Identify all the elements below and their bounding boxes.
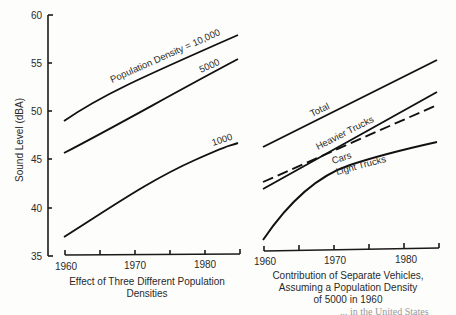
- svg-text:50: 50: [31, 106, 43, 117]
- label-total: Total: [308, 100, 331, 119]
- svg-text:1980: 1980: [194, 259, 217, 270]
- y-tick-labels: 60 55 50 45 40 35: [31, 10, 43, 262]
- right-caption-line-3: of 5000 in 1960: [258, 294, 438, 306]
- left-caption-line-2: Densities: [62, 288, 232, 300]
- line-density-10000: [64, 35, 238, 121]
- right-caption-line-2: Assuming a Population Density: [258, 282, 438, 294]
- svg-text:40: 40: [31, 203, 43, 214]
- chart-canvas: 60 55 50 45 40 35 Sound Level (dBA) 1960…: [0, 0, 456, 315]
- svg-text:60: 60: [31, 10, 43, 21]
- svg-text:1980: 1980: [395, 254, 418, 265]
- svg-text:1970: 1970: [324, 255, 347, 266]
- y-axis-label: Sound Level (dBA): [14, 98, 25, 182]
- left-x-axis: [65, 249, 240, 255]
- right-x-axis: [264, 243, 439, 251]
- left-caption: Effect of Three Different Population Den…: [62, 276, 232, 300]
- label-density-5000: 5000: [197, 56, 221, 75]
- right-caption: Contribution of Separate Vehicles, Assum…: [258, 270, 438, 306]
- line-heavier-trucks: [263, 92, 437, 189]
- svg-text:45: 45: [31, 154, 43, 165]
- svg-text:35: 35: [31, 251, 43, 262]
- cutoff-text: ... in the United States: [340, 306, 429, 315]
- right-series: [263, 60, 437, 240]
- svg-text:55: 55: [31, 58, 43, 69]
- svg-text:1960: 1960: [254, 256, 277, 267]
- svg-text:1960: 1960: [55, 261, 78, 272]
- left-caption-line-1: Effect of Three Different Population: [62, 276, 232, 288]
- line-density-1000: [64, 143, 238, 237]
- right-x-tick-labels: 1960 1970 1980: [254, 254, 418, 267]
- svg-text:1970: 1970: [124, 260, 147, 271]
- y-axis: [48, 15, 53, 256]
- left-x-tick-labels: 1960 1970 1980: [55, 259, 217, 272]
- right-caption-line-1: Contribution of Separate Vehicles,: [258, 270, 438, 282]
